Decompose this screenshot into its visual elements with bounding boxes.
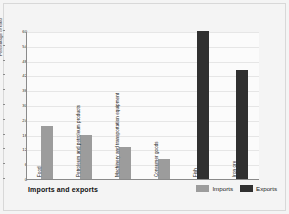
gridline <box>27 76 259 77</box>
plot-area: FoodPetroleum and petroleum productsMach… <box>26 32 259 180</box>
legend-label: Exports <box>256 185 277 192</box>
gridline <box>27 136 259 137</box>
y-axis-title: Percentage of total <box>0 0 3 56</box>
bar-category-label: Iron ore <box>232 161 237 177</box>
bar[interactable] <box>41 126 53 179</box>
y-axis-tick-mark <box>3 163 6 164</box>
y-axis-tick-mark <box>3 89 6 90</box>
legend-item[interactable]: Exports <box>240 185 277 192</box>
bar-category-label: Food <box>37 166 42 177</box>
y-axis-tick-label: 6 <box>5 163 27 167</box>
y-axis-tick-label: 36 <box>5 89 27 93</box>
y-axis-tick-label: 60 <box>5 30 27 34</box>
y-axis-tick-mark <box>3 74 6 75</box>
y-axis-tick-mark <box>3 148 6 149</box>
bar[interactable] <box>236 70 248 179</box>
y-axis-tick-mark <box>3 60 6 61</box>
y-axis-tick-label: 54 <box>5 45 27 49</box>
y-axis-tick-label: 42 <box>5 74 27 78</box>
y-axis-tick-label: 24 <box>5 119 27 123</box>
y-axis-tick-mark <box>3 45 6 46</box>
gridline <box>27 62 259 63</box>
bar-category-label: Consumer goods <box>154 141 159 177</box>
bar[interactable] <box>158 159 170 179</box>
bar-category-label: Machinery and transportation equipment <box>115 93 120 177</box>
gridline <box>27 150 259 151</box>
legend: ImportsExports <box>196 185 277 192</box>
legend-label: Imports <box>212 185 233 192</box>
y-axis-tick-mark <box>3 104 6 105</box>
y-axis-tick-label: 48 <box>5 60 27 64</box>
bar[interactable] <box>119 147 131 179</box>
y-axis-tick-mark <box>3 178 6 179</box>
bar[interactable] <box>197 31 209 179</box>
gridline <box>27 121 259 122</box>
y-axis-tick-mark <box>3 119 6 120</box>
y-axis-tick-mark <box>3 134 6 135</box>
y-axis-tick-label: 30 <box>5 104 27 108</box>
chart-title: Imports and exports <box>28 186 98 193</box>
gridline <box>27 106 259 107</box>
y-axis-tick-mark <box>3 30 6 31</box>
y-axis-tick-label: 12 <box>5 148 27 152</box>
gridline <box>27 165 259 166</box>
y-axis-tick-label: 0 <box>5 178 27 182</box>
bar[interactable] <box>80 135 92 179</box>
y-axis-tick-label: 18 <box>5 134 27 138</box>
legend-item[interactable]: Imports <box>196 185 233 192</box>
legend-swatch <box>196 185 209 192</box>
gridline <box>27 47 259 48</box>
legend-swatch <box>240 185 253 192</box>
gridline <box>27 32 259 33</box>
gridline <box>27 91 259 92</box>
bar-category-label: Fish <box>193 168 198 177</box>
chart-figure: Percentage of total 06121824303642485460… <box>0 0 289 214</box>
bar-category-label: Petroleum and petroleum products <box>76 105 81 177</box>
